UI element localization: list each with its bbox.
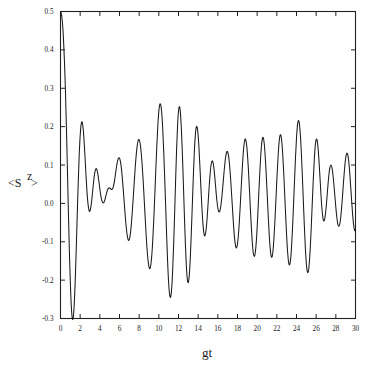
x-tick-label: 6 [118,325,122,333]
x-tick-label: 4 [98,325,102,333]
x-tick-label: 12 [175,325,183,333]
y-tick-label: 0.0 [45,200,54,208]
x-axis-title: gt [202,345,213,360]
x-tick-label: 10 [155,325,163,333]
y-tick-label: 0.4 [45,46,54,54]
x-tick-label: 24 [293,325,301,333]
x-tick-label: 14 [195,325,203,333]
atomic-inversion-chart: 0.50.40.30.20.10.0-0.1-0.2-0.3 024681012… [0,0,370,367]
x-tick-label: 18 [234,325,242,333]
y-tick-label: -0.1 [42,238,54,246]
x-tick-label: 22 [273,325,281,333]
y-tick-label: 0.1 [45,162,54,170]
y-tick-label: -0.3 [42,315,54,323]
y-tick-label: 0.5 [45,8,54,16]
y-tick-label: -0.2 [42,277,54,285]
x-tick-label: 28 [332,325,340,333]
y-tick-label: 0.2 [45,123,54,131]
x-tick-label: 2 [78,325,82,333]
x-tick-label: 20 [254,325,262,333]
y-axis-title-suffix: > [31,176,38,190]
x-tick-label: 16 [214,325,222,333]
x-tick-label: 30 [352,325,360,333]
y-tick-label: 0.3 [45,85,54,93]
x-tick-label: 26 [313,325,321,333]
chart-background [0,0,370,367]
x-tick-label: 0 [59,325,63,333]
figure-container: 0.50.40.30.20.10.0-0.1-0.2-0.3 024681012… [0,0,370,367]
x-tick-label: 8 [137,325,141,333]
y-axis-title-prefix: <S [8,176,21,190]
